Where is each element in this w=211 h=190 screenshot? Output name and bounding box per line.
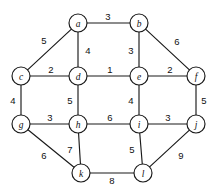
graph-canvas: 35436241524536673598 abcdefghijkl (0, 0, 211, 190)
graph-node-e[interactable]: e (130, 67, 148, 85)
graph-node-k[interactable]: k (72, 164, 90, 182)
graph-node-i[interactable]: i (130, 115, 148, 133)
graph-node-g[interactable]: g (12, 115, 30, 133)
edge-weight-label: 7 (67, 144, 72, 155)
node-label: b (137, 19, 142, 29)
node-label: e (137, 72, 141, 82)
edge-weight-label: 3 (165, 112, 170, 123)
node-label: g (19, 120, 24, 130)
graph-node-f[interactable]: f (187, 67, 205, 85)
graph-node-l[interactable]: l (134, 164, 152, 182)
graph-edge (140, 133, 143, 164)
edge-weight-label: 4 (128, 95, 133, 106)
edge-weight-label: 2 (167, 64, 172, 75)
edge-weight-label: 5 (129, 144, 134, 155)
edge-weight-label: 1 (107, 64, 112, 75)
node-label: a (76, 19, 81, 29)
edge-weight-label: 3 (105, 11, 110, 22)
edge-weight-label: 6 (107, 112, 112, 123)
edge-weight-label: 4 (85, 45, 90, 56)
edge-weight-label: 6 (41, 150, 46, 161)
graph-node-a[interactable]: a (69, 14, 87, 32)
edge-weight-label: 5 (67, 95, 72, 106)
edge-weight-label: 8 (109, 175, 114, 186)
graph-node-c[interactable]: c (12, 67, 30, 85)
node-label: l (142, 169, 145, 179)
edge-weight-label: 3 (128, 45, 133, 56)
node-label: i (138, 120, 141, 130)
weighted-graph-figure: 35436241524536673598 abcdefghijkl (0, 0, 211, 190)
edge-weight-label: 6 (174, 36, 179, 47)
graph-node-b[interactable]: b (130, 14, 148, 32)
graph-edge (79, 133, 81, 164)
node-label: d (76, 72, 81, 82)
node-label: h (76, 120, 81, 130)
graph-node-h[interactable]: h (69, 115, 87, 133)
edge-weight-label: 5 (201, 95, 206, 106)
graph-node-d[interactable]: d (69, 67, 87, 85)
edge-weight-label: 3 (47, 112, 52, 123)
edge-weight-label: 2 (48, 64, 53, 75)
graph-edge (150, 130, 190, 167)
graph-node-j[interactable]: j (187, 115, 205, 133)
edge-weight-label: 9 (178, 150, 183, 161)
edge-weights-layer: 35436241524536673598 (9, 11, 208, 186)
edge-weight-label: 4 (10, 95, 15, 106)
edge-weight-label: 5 (41, 35, 46, 46)
